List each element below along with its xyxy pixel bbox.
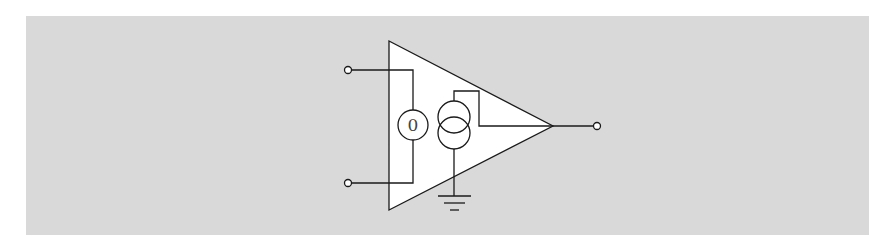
input-terminal-bottom [345, 180, 352, 187]
zero-source-label: 0 [408, 115, 419, 135]
circuit-diagram: 0 [0, 0, 887, 247]
output-terminal [594, 123, 601, 130]
input-terminal-top [345, 67, 352, 74]
